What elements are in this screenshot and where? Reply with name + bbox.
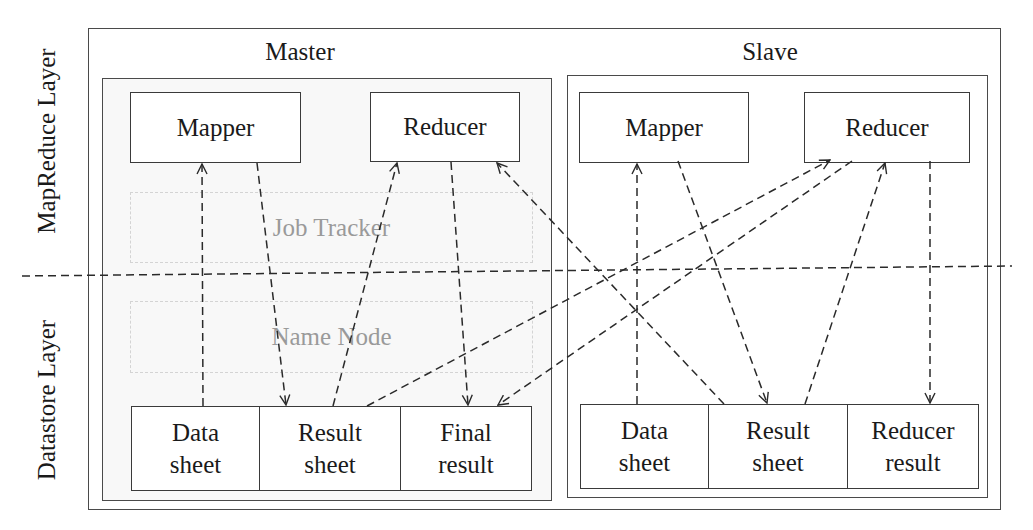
master-mapper-box: Mapper (130, 92, 301, 163)
name-node-box: Name Node (130, 301, 533, 373)
master-data-sheet: Datasheet (132, 407, 260, 490)
slave-mapper-label: Mapper (625, 114, 703, 142)
master-result-sheet: Resultsheet (260, 407, 401, 490)
master-datastore-row: Datasheet Resultsheet Finalresult (131, 406, 532, 491)
slave-datastore-row: Datasheet Resultsheet Reducerresult (580, 404, 979, 489)
slave-reducer-label: Reducer (845, 114, 928, 142)
slave-data-sheet: Datasheet (581, 405, 709, 488)
job-tracker-label: Job Tracker (273, 214, 390, 242)
job-tracker-box: Job Tracker (130, 192, 533, 263)
master-reducer-box: Reducer (370, 92, 520, 162)
slave-reducer-box: Reducer (804, 92, 970, 163)
master-mapper-label: Mapper (177, 114, 255, 142)
slave-mapper-box: Mapper (579, 92, 749, 163)
slave-reducer-result: Reducerresult (848, 405, 978, 488)
slave-title: Slave (700, 38, 840, 70)
name-node-label: Name Node (271, 323, 391, 351)
layer-label-mapreduce: MapReduce Layer (33, 41, 63, 241)
master-title: Master (240, 38, 360, 70)
master-final-result: Finalresult (401, 407, 531, 490)
layer-label-datastore: Datastore Layer (33, 300, 63, 500)
slave-result-sheet: Resultsheet (709, 405, 848, 488)
master-reducer-label: Reducer (403, 113, 486, 141)
